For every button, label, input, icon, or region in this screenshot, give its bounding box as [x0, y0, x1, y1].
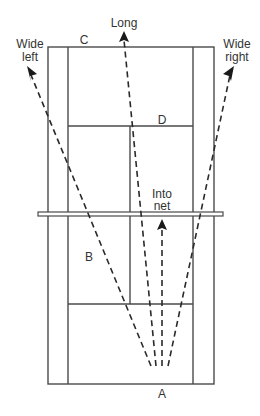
label-long: Long	[111, 16, 138, 30]
label-wide-left-line2: left	[22, 50, 39, 64]
label-into-net-line2: net	[154, 199, 171, 213]
net	[38, 212, 223, 216]
tennis-court-diagram: Wide left C Long Wide right D Into net B…	[0, 0, 260, 416]
label-c: C	[80, 33, 89, 47]
shot-wide-left	[31, 75, 151, 366]
arrow-wide-left-icon	[27, 66, 37, 82]
label-wide-right-line1: Wide	[223, 37, 251, 51]
arrow-into-net-icon	[157, 219, 167, 230]
label-d: D	[158, 113, 167, 127]
arrow-long-icon	[119, 31, 129, 42]
shot-long	[124, 40, 156, 366]
shot-wide-right	[168, 75, 230, 366]
label-wide-right-line2: right	[225, 50, 249, 64]
label-wide-left-line1: Wide	[16, 37, 44, 51]
label-a: A	[158, 387, 166, 401]
label-b: B	[85, 250, 93, 264]
